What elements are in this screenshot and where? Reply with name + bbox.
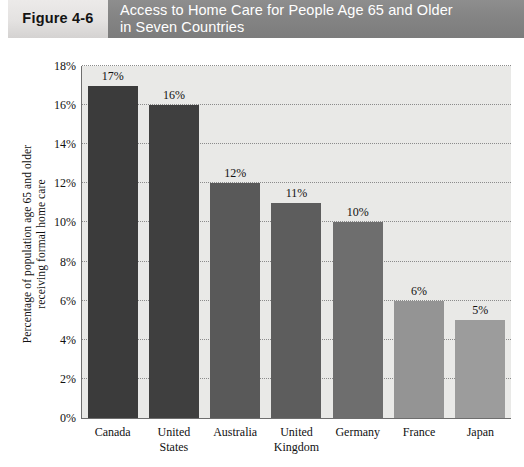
figure-title: Access to Home Care for People Age 65 an… [120,2,516,36]
y-axis-tick-label: 18% [54,59,76,74]
y-axis-title-line-1: Percentage of population age 65 and olde… [20,64,34,424]
bar[interactable] [333,222,383,418]
figure-title-bar: Access to Home Care for People Age 65 an… [108,0,524,38]
figure-title-line-2: in Seven Countries [120,19,516,36]
bar[interactable] [210,183,260,418]
x-axis-tick-label: Japan [467,425,494,440]
bar-series: 17%Canada16%UnitedStates12%Australia11%U… [82,66,511,418]
plot-area: 0%2%4%6%8%10%12%14%16%18% 17%Canada16%Un… [81,66,511,419]
y-axis-tick-label: 14% [54,137,76,152]
x-axis-tick-label-line: United [274,425,319,440]
x-axis-tick-label: UnitedStates [158,425,191,454]
y-axis-tick-label: 12% [54,176,76,191]
y-axis-tick-label: 0% [60,411,76,426]
y-axis-tick-label: 8% [60,254,76,269]
bar-value-label: 17% [102,69,124,84]
y-axis-tick-label: 10% [54,215,76,230]
bar-group[interactable]: 10%Germany [327,66,388,418]
bar-value-label: 10% [347,205,369,220]
bar-value-label: 11% [286,186,308,201]
bar-group[interactable]: 16%UnitedStates [143,66,204,418]
x-axis-tick-label: Canada [95,425,131,440]
bar[interactable] [88,86,138,418]
bar-group[interactable]: 6%France [388,66,449,418]
bar-group[interactable]: 5%Japan [450,66,511,418]
x-axis-tick-label: Germany [335,425,380,440]
x-axis-tick-label-line: Canada [95,425,131,440]
bar-value-label: 12% [224,166,246,181]
x-axis-tick-label-line: Germany [335,425,380,440]
figure-number-label: Figure 4-6 [8,10,108,26]
x-axis-tick-label-line: States [158,440,191,455]
x-axis-tick-label: France [403,425,436,440]
x-axis-tick-label-line: United [158,425,191,440]
bar[interactable] [271,203,321,418]
y-axis-tick-label: 16% [54,98,76,113]
bar-group[interactable]: 17%Canada [82,66,143,418]
figure-header: Figure 4-6 Access to Home Care for Peopl… [0,0,524,40]
bar-value-label: 6% [411,284,427,299]
bar-value-label: 5% [472,303,488,318]
bar-group[interactable]: 12%Australia [205,66,266,418]
y-axis-tick-label: 6% [60,293,76,308]
bar[interactable] [394,301,444,418]
bar[interactable] [455,320,505,418]
bar[interactable] [149,105,199,418]
x-axis-tick-label-line: Australia [213,425,257,440]
bar-chart: Percentage of population age 65 and olde… [0,40,524,467]
y-axis-title: Percentage of population age 65 and olde… [20,64,48,424]
y-axis-title-line-2: receiving formal home care [34,64,48,424]
x-axis-tick-label-line: Kingdom [274,440,319,455]
figure-title-line-1: Access to Home Care for People Age 65 an… [120,2,516,19]
bar-group[interactable]: 11%UnitedKingdom [266,66,327,418]
bar-value-label: 16% [163,88,185,103]
y-axis-tick-label: 4% [60,332,76,347]
x-axis-tick-label-line: Japan [467,425,494,440]
y-axis-tick-label: 2% [60,371,76,386]
x-axis-tick-label: Australia [213,425,257,440]
x-axis-tick-label-line: France [403,425,436,440]
figure-number-box: Figure 4-6 [8,0,108,38]
x-axis-tick-label: UnitedKingdom [274,425,319,454]
